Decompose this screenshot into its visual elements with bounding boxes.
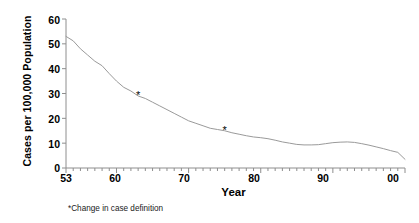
data-line-series — [66, 36, 405, 159]
asterisk-marker: * — [223, 124, 228, 136]
line-chart: Cases per 100,000 Population 60 50 40 30… — [0, 0, 419, 223]
asterisk-marker: * — [136, 89, 141, 101]
y-axis-ticks — [62, 19, 66, 168]
x-axis-ticks — [66, 168, 405, 173]
plot-area: ** — [0, 0, 419, 223]
